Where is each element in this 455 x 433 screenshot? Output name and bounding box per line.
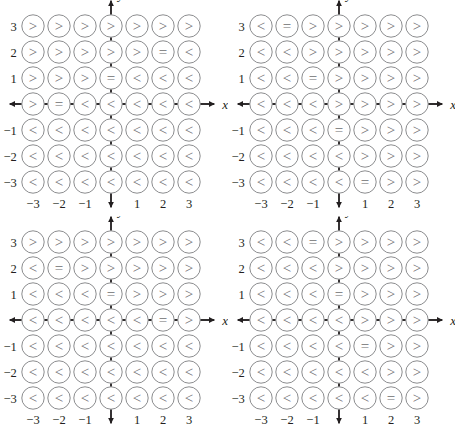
lattice-cell: < — [22, 171, 44, 193]
lattice-cell: > — [406, 67, 428, 89]
comparison-symbol: < — [309, 96, 317, 112]
comparison-symbol: < — [107, 122, 115, 138]
lattice-cell: < — [152, 145, 174, 167]
x-tick-label: −3 — [26, 197, 39, 211]
comparison-symbol: < — [81, 312, 89, 328]
lattice-cell: < — [302, 257, 324, 279]
comparison-symbol: < — [309, 364, 317, 380]
comparison-symbol: < — [29, 122, 37, 138]
lattice-cell: > — [354, 15, 376, 37]
comparison-symbol: < — [29, 338, 37, 354]
comparison-symbol: > — [29, 234, 37, 250]
lattice-cell: < — [100, 119, 122, 141]
x-axis-label: x — [221, 97, 228, 112]
lattice-cell: > — [126, 257, 148, 279]
comparison-symbol: > — [361, 286, 369, 302]
comparison-symbol: > — [159, 18, 167, 34]
lattice-cell: < — [126, 145, 148, 167]
comparison-symbol: < — [185, 122, 193, 138]
comparison-symbol: < — [81, 122, 89, 138]
lattice-cell: > — [48, 41, 70, 63]
comparison-symbol: > — [159, 286, 167, 302]
comparison-symbol: < — [335, 390, 343, 406]
comparison-symbol: = — [55, 96, 63, 112]
lattice-cell: > — [406, 361, 428, 383]
lattice-cell: < — [354, 361, 376, 383]
lattice-cell: > — [48, 67, 70, 89]
lattice-cell: < — [100, 171, 122, 193]
comparison-symbol: = — [309, 234, 317, 250]
y-tick-label: 2 — [239, 46, 245, 60]
lattice-cell: < — [276, 231, 298, 253]
lattice-cell: < — [178, 93, 200, 115]
lattice-cell: > — [380, 257, 402, 279]
lattice-cell: < — [74, 119, 96, 141]
y-axis-label: y — [344, 0, 352, 2]
comparison-symbol: < — [309, 148, 317, 164]
lattice-cell: > — [126, 41, 148, 63]
comparison-symbol: = — [55, 260, 63, 276]
comparison-symbol: > — [133, 234, 141, 250]
comparison-symbol: > — [361, 148, 369, 164]
lattice-cell: < — [126, 93, 148, 115]
lattice-cell: = — [302, 67, 324, 89]
comparison-symbol: < — [185, 364, 193, 380]
comparison-symbol: > — [29, 44, 37, 60]
x-tick-label: 1 — [134, 197, 140, 211]
lattice-cell: < — [126, 119, 148, 141]
lattice-cell: < — [178, 335, 200, 357]
lattice-cell: < — [22, 387, 44, 409]
lattice-cell: < — [276, 119, 298, 141]
lattice-cell: < — [250, 387, 272, 409]
comparison-symbol: > — [387, 364, 395, 380]
comparison-symbol: < — [159, 174, 167, 190]
x-tick-label: 3 — [414, 413, 420, 427]
lattice-cell: > — [406, 283, 428, 305]
comparison-symbol: < — [29, 390, 37, 406]
x-tick-label: −2 — [280, 413, 293, 427]
comparison-symbol: = — [335, 122, 343, 138]
lattice-cell: < — [328, 309, 350, 331]
lattice-cell: > — [380, 119, 402, 141]
lattice-cell: > — [126, 283, 148, 305]
comparison-symbol: > — [361, 122, 369, 138]
lattice-cell: < — [328, 361, 350, 383]
lattice-cell: < — [152, 93, 174, 115]
lattice-cell: < — [178, 145, 200, 167]
comparison-symbol: < — [283, 390, 291, 406]
lattice-cell: > — [74, 41, 96, 63]
lattice-cell: < — [250, 309, 272, 331]
lattice-cell: < — [22, 257, 44, 279]
lattice-cell: < — [74, 387, 96, 409]
lattice-cell: < — [250, 231, 272, 253]
y-tick-label: 2 — [11, 262, 17, 276]
comparison-symbol: > — [107, 18, 115, 34]
lattice-cell: < — [22, 309, 44, 331]
lattice-cell: < — [302, 145, 324, 167]
x-axis-label: x — [221, 313, 228, 328]
comparison-symbol: < — [159, 122, 167, 138]
comparison-symbol: < — [107, 96, 115, 112]
lattice-cell: < — [100, 145, 122, 167]
comparison-symbol: < — [335, 174, 343, 190]
lattice-cell: > — [380, 93, 402, 115]
comparison-symbol: < — [29, 286, 37, 302]
lattice-cell: < — [74, 361, 96, 383]
comparison-symbol: > — [413, 122, 421, 138]
comparison-symbol: > — [55, 18, 63, 34]
comparison-symbol: < — [257, 260, 265, 276]
comparison-symbol: < — [133, 174, 141, 190]
comparison-symbol: > — [81, 44, 89, 60]
y-tick-label: 1 — [11, 72, 17, 86]
lattice-cell: > — [354, 93, 376, 115]
comparison-symbol: > — [55, 44, 63, 60]
lattice-cell: < — [250, 171, 272, 193]
comparison-symbol: = — [107, 70, 115, 86]
lattice-cell: > — [328, 257, 350, 279]
lattice-cell: > — [380, 145, 402, 167]
lattice-cell: > — [22, 93, 44, 115]
comparison-symbol: < — [159, 338, 167, 354]
comparison-symbol: < — [159, 390, 167, 406]
lattice-cell: < — [48, 361, 70, 383]
lattice-cells: <<=>>>><<<>>>><<<=>>><<<<>>><<<<=>><<<<<… — [250, 231, 428, 409]
